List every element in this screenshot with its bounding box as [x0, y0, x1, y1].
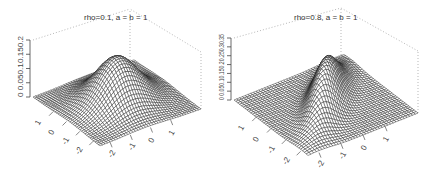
- x-tick-label: 1: [381, 134, 391, 143]
- x-tick-label: -2: [315, 158, 327, 169]
- surface-wireframe: 0 0.050.10.150.210-1-2-2-101: [0, 0, 216, 180]
- z-axis: [227, 38, 231, 100]
- surface-wireframe: 0 0.050.10.150.20.250.30.3510-1-2-2-101: [216, 0, 433, 180]
- plot-title: rho=0.1, a = b = 1: [84, 13, 147, 22]
- x-tick-label: -1: [337, 150, 349, 161]
- x-tick-label: 0: [146, 136, 156, 145]
- y-tick-label: -2: [281, 155, 293, 166]
- x-tick-label: -1: [126, 141, 138, 152]
- y-tick-label: -1: [266, 144, 278, 155]
- surface-mesh: [234, 55, 418, 156]
- x-tick-label: 1: [167, 128, 177, 137]
- plot-title: rho=0.8, a = b = 1: [294, 13, 357, 22]
- x-tick-label: -2: [106, 148, 118, 159]
- x-tick-label: 0: [359, 143, 369, 152]
- y-tick-label: 1: [33, 118, 43, 127]
- y-tick-label: 1: [236, 123, 246, 132]
- surface-mesh: [33, 56, 201, 146]
- z-axis-tick-labels: 0 0.050.10.150.20.250.30.35: [217, 34, 226, 100]
- y-tick-label: 0: [251, 135, 261, 144]
- y-tick-label: -2: [73, 145, 85, 156]
- z-axis: [26, 40, 30, 97]
- y-tick-label: -1: [60, 135, 72, 146]
- z-axis-tick-labels: 0 0.050.10.150.2: [16, 35, 25, 97]
- surface-plot-rho-0.1: 0 0.050.10.150.210-1-2-2-101 rho=0.1, a …: [0, 0, 216, 180]
- surface-plot-rho-0.8: 0 0.050.10.150.20.250.30.3510-1-2-2-101 …: [216, 0, 433, 180]
- y-tick-label: 0: [46, 128, 56, 137]
